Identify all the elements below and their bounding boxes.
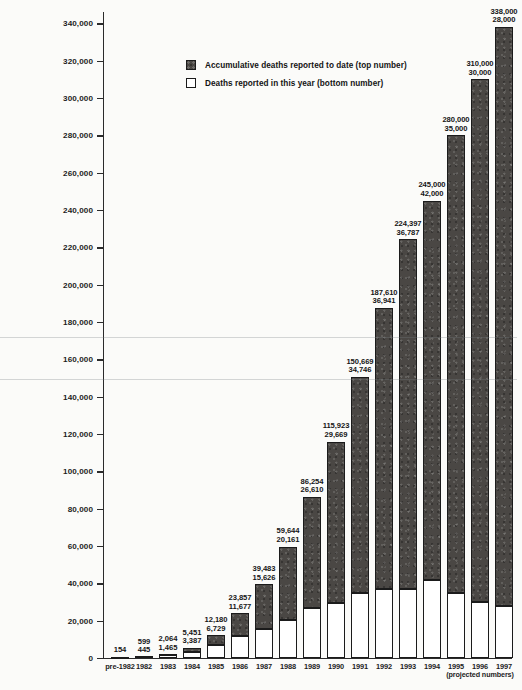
bar-1986: 23,85711,677 xyxy=(231,613,249,658)
bar-1988: 59,64420,161 xyxy=(279,547,297,658)
bar-1989: 86,25426,610 xyxy=(303,497,321,658)
projected-numbers-note: (projected numbers) xyxy=(435,670,522,679)
legend-label-annual: Deaths reported in this year (bottom num… xyxy=(205,79,383,88)
y-tick-label-300000: 300,000 xyxy=(63,94,93,103)
bar-segment-accumulative-1993 xyxy=(399,239,417,589)
bar-segment-accumulative-pre-1982 xyxy=(111,657,129,659)
bar-1996: 310,00030,000 xyxy=(471,79,489,658)
y-tick-label-140000: 140,000 xyxy=(63,392,93,401)
bar-segment-accumulative-1990 xyxy=(327,442,345,603)
y-tick-label-180000: 180,000 xyxy=(63,318,93,327)
bar-1987: 39,48315,626 xyxy=(255,584,273,658)
y-tick-220000 xyxy=(97,247,103,248)
bar-1985: 12,1806,729 xyxy=(207,635,225,658)
y-tick-160000 xyxy=(97,359,103,360)
y-tick-260000 xyxy=(97,173,103,174)
chart-legend: Accumulative deaths reported to date (to… xyxy=(186,60,407,96)
bar-segment-annual-1984 xyxy=(183,652,201,658)
y-tick-label-0: 0 xyxy=(88,654,93,663)
bar-segment-annual-1983 xyxy=(159,655,177,658)
bar-segment-annual-1989 xyxy=(303,608,321,658)
bar-segment-annual-1993 xyxy=(399,589,417,658)
bar-segment-accumulative-1992 xyxy=(375,308,393,589)
y-tick-label-40000: 40,000 xyxy=(68,579,93,588)
y-tick-label-100000: 100,000 xyxy=(63,467,93,476)
bar-1983: 2,0641,465 xyxy=(159,654,177,658)
y-tick-label-120000: 120,000 xyxy=(63,430,93,439)
bar-segment-accumulative-1985 xyxy=(207,635,225,645)
y-tick-label-20000: 20,000 xyxy=(68,616,93,625)
bar-1994: 245,00042,000 xyxy=(423,201,441,658)
bar-value-label-1991: 150,66934,746 xyxy=(346,358,373,375)
bar-segment-annual-1996 xyxy=(471,602,489,658)
y-tick-300000 xyxy=(97,98,103,99)
bar-value-label-1982: 599445 xyxy=(138,638,151,655)
bar-value-label-1988: 59,64420,161 xyxy=(277,527,300,544)
y-tick-20000 xyxy=(97,621,103,622)
x-axis-line xyxy=(103,658,512,659)
y-tick-label-320000: 320,000 xyxy=(63,56,93,65)
bar-segment-accumulative-1991 xyxy=(351,377,369,593)
bar-segment-annual-1987 xyxy=(255,629,273,658)
legend-label-accumulative: Accumulative deaths reported to date (to… xyxy=(205,61,407,70)
legend-swatch-light-icon xyxy=(186,78,196,88)
y-tick-label-200000: 200,000 xyxy=(63,280,93,289)
y-tick-label-280000: 280,000 xyxy=(63,131,93,140)
legend-item-annual: Deaths reported in this year (bottom num… xyxy=(186,78,407,88)
bar-segment-annual-1997 xyxy=(495,606,513,658)
legend-item-accumulative: Accumulative deaths reported to date (to… xyxy=(186,60,407,70)
bar-1995: 280,00035,000 xyxy=(447,135,465,658)
bar-1984: 5,4513,387 xyxy=(183,648,201,658)
y-tick-60000 xyxy=(97,546,103,547)
y-tick-80000 xyxy=(97,509,103,510)
bar-segment-annual-1990 xyxy=(327,603,345,658)
bar-segment-accumulative-1997 xyxy=(495,27,513,606)
bar-segment-annual-1992 xyxy=(375,589,393,658)
y-tick-180000 xyxy=(97,322,103,323)
bar-value-label-1983: 2,0641,465 xyxy=(159,635,178,652)
bar-value-label-1990: 115,92329,669 xyxy=(323,422,350,439)
bar-value-label-1986: 23,85711,677 xyxy=(229,594,252,611)
y-tick-label-160000: 160,000 xyxy=(63,355,93,364)
bar-value-label-1984: 5,4513,387 xyxy=(183,629,202,646)
y-tick-label-260000: 260,000 xyxy=(63,168,93,177)
y-tick-240000 xyxy=(97,210,103,211)
legend-swatch-dark-icon xyxy=(186,60,196,70)
bar-segment-accumulative-1994 xyxy=(423,201,441,580)
bar-1991: 150,66934,746 xyxy=(351,377,369,658)
bar-segment-annual-1985 xyxy=(207,645,225,658)
y-axis-line xyxy=(103,12,104,659)
y-tick-label-240000: 240,000 xyxy=(63,206,93,215)
bar-1992: 187,61036,941 xyxy=(375,308,393,658)
bar-segment-annual-1991 xyxy=(351,593,369,658)
y-tick-0 xyxy=(97,658,103,659)
bar-1990: 115,92329,669 xyxy=(327,442,345,658)
y-tick-100000 xyxy=(97,471,103,472)
bar-segment-accumulative-1996 xyxy=(471,79,489,602)
y-tick-200000 xyxy=(97,285,103,286)
bar-value-label-pre-1982: 154 xyxy=(114,646,127,655)
y-tick-label-60000: 60,000 xyxy=(68,542,93,551)
bar-segment-accumulative-1986 xyxy=(231,613,249,636)
bar-segment-accumulative-1987 xyxy=(255,584,273,629)
bar-value-label-1997: 338,00028,000 xyxy=(490,8,517,25)
bar-segment-annual-1986 xyxy=(231,636,249,658)
bar-pre-1982: 154 xyxy=(111,657,129,658)
bar-1993: 224,39736,787 xyxy=(399,239,417,658)
y-tick-40000 xyxy=(97,583,103,584)
bar-value-label-1992: 187,61036,941 xyxy=(370,289,397,306)
bar-1997: 338,00028,000 xyxy=(495,27,513,658)
bar-1982: 599445 xyxy=(135,657,153,658)
bar-segment-annual-1988 xyxy=(279,620,297,658)
bar-value-label-1996: 310,00030,000 xyxy=(466,60,493,77)
bar-value-label-1993: 224,39736,787 xyxy=(394,220,421,237)
bar-segment-annual-1994 xyxy=(423,580,441,658)
y-tick-340000 xyxy=(97,23,103,24)
bar-value-label-1989: 86,25426,610 xyxy=(301,478,324,495)
bar-segment-annual-1982 xyxy=(135,656,153,658)
bar-segment-accumulative-1988 xyxy=(279,547,297,621)
y-tick-label-220000: 220,000 xyxy=(63,243,93,252)
bar-value-label-1995: 280,00035,000 xyxy=(442,116,469,133)
y-tick-320000 xyxy=(97,61,103,62)
